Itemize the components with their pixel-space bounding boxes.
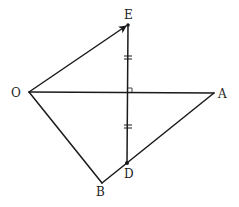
geometry-diagram: E O A D B <box>0 0 239 207</box>
segment-ed <box>127 25 128 163</box>
vector-oe <box>29 26 126 92</box>
segment-ba <box>102 93 214 183</box>
label-b: B <box>96 185 105 199</box>
point-e <box>126 23 130 27</box>
label-e: E <box>124 8 133 22</box>
segment-oa <box>29 92 214 93</box>
segment-ob <box>29 92 102 183</box>
label-o: O <box>11 86 21 100</box>
label-a: A <box>217 87 227 101</box>
right-angle-marker <box>128 88 132 92</box>
point-d <box>125 161 129 165</box>
label-d: D <box>124 167 134 181</box>
